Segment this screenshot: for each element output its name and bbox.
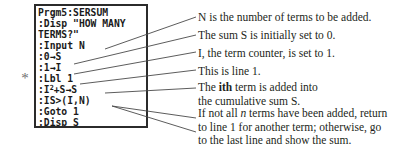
program-listing: Prgm5:SERSUM:Disp "HOW MANYTERMS?":Input… bbox=[38, 7, 148, 128]
program-line: :Input N bbox=[38, 40, 148, 51]
asterisk-marker: * bbox=[18, 70, 32, 86]
calculator-lcd-screen: Prgm5:SERSUM:Disp "HOW MANYTERMS?":Input… bbox=[34, 4, 148, 128]
program-line: :Disp S bbox=[38, 117, 148, 128]
annotation-line: If not all n terms have been added, retu… bbox=[198, 107, 387, 121]
annotation-line: to line 1 for another term; otherwise, g… bbox=[198, 121, 387, 135]
annotation-counter-init-note: I, the term counter, is set to 1. bbox=[198, 47, 335, 61]
program-line: Prgm5:SERSUM bbox=[38, 7, 148, 18]
figure-ti-program-annotated: * Prgm5:SERSUM:Disp "HOW MANYTERMS?":Inp… bbox=[0, 0, 403, 154]
program-line: :IS>(I,N) bbox=[38, 95, 148, 106]
annotation-line-one-note: This is line 1. bbox=[198, 65, 261, 79]
annotation-line: The sum S is initially set to 0. bbox=[198, 29, 335, 43]
annotation-sum-init-note: The sum S is initially set to 0. bbox=[198, 29, 335, 43]
annotation-line: This is line 1. bbox=[198, 65, 261, 79]
program-line: :Goto 1 bbox=[38, 106, 148, 117]
annotation-cumulative-sum-note: The ith term is added intothe cumulative… bbox=[198, 81, 318, 108]
annotation-line: N is the number of terms to be added. bbox=[198, 11, 371, 25]
program-line: :0→S bbox=[38, 51, 148, 62]
program-line: :Lbl 1 bbox=[38, 73, 148, 84]
annotation-line: to the last line and show the sum. bbox=[198, 134, 387, 148]
program-line: :I2+S→S bbox=[38, 84, 148, 95]
program-line: TERMS?" bbox=[38, 29, 148, 40]
annotation-n-terms-note: N is the number of terms to be added. bbox=[198, 11, 371, 25]
annotation-line: The ith term is added into bbox=[198, 81, 318, 95]
annotation-line: the cumulative sum S. bbox=[198, 95, 318, 109]
program-line: :1→I bbox=[38, 62, 148, 73]
program-line: :Disp "HOW MANY bbox=[38, 18, 148, 29]
annotation-loop-control-note: If not all n terms have been added, retu… bbox=[198, 107, 387, 148]
annotation-line: I, the term counter, is set to 1. bbox=[198, 47, 335, 61]
